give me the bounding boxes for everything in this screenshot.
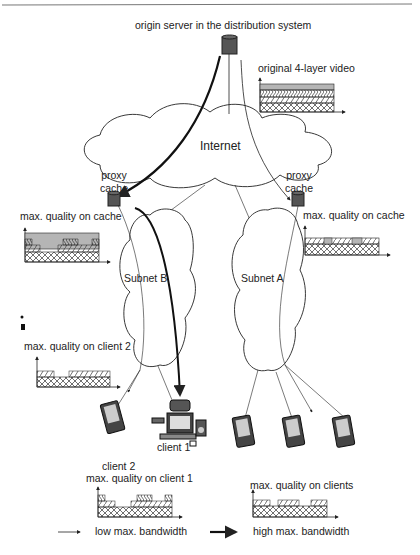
- max-quality-client2-label: max. quality on client 2: [24, 341, 131, 352]
- proxy-cache-left-label: proxy cache: [100, 170, 128, 193]
- legend-low-bandwidth-label: low max. bandwidth: [95, 526, 187, 537]
- subnet-b-label: Subnet B: [124, 273, 167, 284]
- cache-left-chart: [25, 228, 110, 262]
- proxy-cache-right-label: proxy cache: [285, 170, 313, 193]
- top-rule: [2, 4, 412, 5]
- client2-label: client 2: [102, 461, 135, 472]
- origin-server-label: origin server in the distribution system: [135, 20, 311, 31]
- original-video-chart: [260, 78, 345, 112]
- subnet-a-label: Subnet A: [241, 273, 284, 284]
- client2-chart: [37, 357, 120, 387]
- pda-client2-icon: [100, 400, 125, 434]
- origin-server-icon: [222, 35, 237, 54]
- clients-chart: [253, 490, 338, 517]
- subnet-b-cloud: [120, 209, 196, 367]
- max-quality-client1-label: max. quality on client 1: [86, 473, 193, 484]
- legend-high-bandwidth-label: high max. bandwidth: [253, 526, 349, 537]
- cache-right-chart: [305, 226, 390, 255]
- max-quality-cache-left-label: max. quality on cache: [20, 211, 122, 222]
- video-distribution-diagram: [0, 0, 420, 555]
- original-video-label: original 4-layer video: [258, 63, 355, 74]
- max-quality-clients-label: max. quality on clients: [250, 480, 353, 491]
- pda-client-a2-icon: [282, 415, 305, 448]
- client1-chart: [98, 487, 182, 517]
- desktop-client1-icon: [152, 400, 206, 446]
- pda-client-a3-icon: [332, 415, 355, 448]
- client1-label: client 1: [157, 442, 190, 453]
- subnet-a-cloud: [232, 208, 305, 371]
- max-quality-cache-right-label: max. quality on cache: [303, 210, 405, 221]
- internet-label: Internet: [200, 140, 241, 152]
- pda-client-a1-icon: [232, 415, 255, 448]
